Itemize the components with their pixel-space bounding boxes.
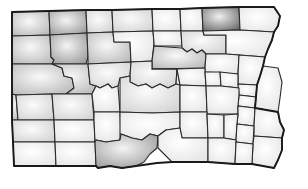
county-pierce[interactable] — [153, 31, 182, 46]
county-slope[interactable] — [12, 120, 55, 142]
county-rolette[interactable] — [152, 9, 181, 31]
north-dakota-county-map — [0, 0, 308, 189]
county-mountrail[interactable] — [50, 33, 88, 64]
county-renville[interactable] — [86, 10, 113, 33]
county-kidder[interactable] — [180, 85, 207, 112]
county-burke[interactable] — [49, 10, 87, 35]
county-wells[interactable] — [177, 68, 206, 86]
county-ransom[interactable] — [236, 124, 254, 144]
county-nelson[interactable] — [205, 54, 239, 74]
county-emmons[interactable] — [180, 112, 208, 138]
county-stark[interactable] — [52, 94, 94, 120]
county-cavalier[interactable] — [202, 7, 240, 31]
county-sargent[interactable] — [235, 142, 253, 164]
map-svg — [0, 0, 308, 189]
county-adams[interactable] — [55, 142, 96, 166]
county-richland[interactable] — [252, 136, 282, 168]
county-bowman[interactable] — [13, 142, 56, 166]
county-hettinger[interactable] — [54, 120, 95, 142]
county-foster[interactable] — [220, 72, 239, 88]
county-pembina[interactable] — [239, 7, 280, 32]
county-divide[interactable] — [12, 11, 50, 36]
county-dickey[interactable] — [208, 138, 236, 164]
county-bottineau[interactable] — [112, 9, 153, 32]
county-towner[interactable] — [180, 8, 203, 31]
county-oliver[interactable] — [92, 84, 120, 112]
county-stutsman[interactable] — [206, 86, 239, 114]
county-billings[interactable] — [16, 94, 54, 120]
county-logan[interactable] — [207, 114, 224, 138]
county-williams[interactable] — [12, 35, 54, 64]
county-eddy[interactable] — [205, 72, 221, 86]
county-barnes[interactable] — [237, 106, 255, 126]
county-grant[interactable] — [94, 112, 121, 142]
